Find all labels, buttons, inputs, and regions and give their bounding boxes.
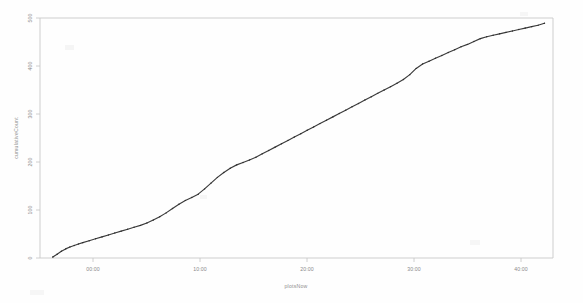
data-point	[108, 234, 109, 235]
data-point	[531, 26, 532, 27]
y-tick-label-200: 200	[27, 158, 33, 167]
data-point	[236, 164, 237, 165]
y-tick-label-500: 500	[27, 14, 33, 23]
data-point	[505, 32, 506, 33]
data-point	[121, 230, 122, 231]
data-point	[52, 256, 53, 257]
x-axis-tick-labels: 00:00 10:00 20:00 30:00 40:00	[86, 266, 527, 272]
data-point	[524, 27, 525, 28]
data-point	[332, 116, 333, 117]
data-point	[512, 30, 513, 31]
data-point	[409, 74, 410, 75]
data-point	[351, 106, 352, 107]
data-point	[383, 89, 384, 90]
data-point	[371, 96, 372, 97]
data-point	[390, 86, 391, 87]
data-point	[133, 227, 134, 228]
data-point	[345, 109, 346, 110]
data-point	[172, 208, 173, 209]
data-point	[422, 63, 423, 64]
data-point	[268, 150, 269, 151]
data-point	[415, 68, 416, 69]
y-tick-label-400: 400	[27, 62, 33, 71]
y-axis-ticks	[36, 18, 40, 258]
series-line-cumulative	[53, 23, 545, 257]
data-point	[358, 103, 359, 104]
data-point	[65, 248, 66, 249]
data-point	[480, 38, 481, 39]
data-point	[281, 143, 282, 144]
data-point	[101, 236, 102, 237]
data-point	[82, 242, 83, 243]
y-tick-label-0: 0	[27, 257, 33, 260]
data-point	[537, 24, 538, 25]
data-point	[326, 120, 327, 121]
data-point	[518, 29, 519, 30]
data-point	[396, 83, 397, 84]
data-point	[255, 156, 256, 157]
data-point	[197, 193, 198, 194]
chart-plot-area: 0 100 200 300 400 500 00:00 10:00 20:00 …	[0, 0, 583, 303]
data-point	[114, 232, 115, 233]
data-point	[428, 60, 429, 61]
x-axis-ticks	[93, 258, 521, 262]
data-point	[460, 46, 461, 47]
data-point	[287, 140, 288, 141]
paper-noise	[30, 12, 528, 295]
y-axis-tick-labels: 0 100 200 300 400 500	[27, 14, 33, 260]
data-point	[204, 188, 205, 189]
axis-frame	[40, 18, 553, 258]
data-point	[473, 41, 474, 42]
data-point	[306, 130, 307, 131]
data-point	[454, 49, 455, 50]
data-point	[364, 99, 365, 100]
data-point	[492, 35, 493, 36]
data-point	[223, 172, 224, 173]
data-point	[178, 204, 179, 205]
data-point	[294, 136, 295, 137]
data-point	[210, 182, 211, 183]
data-point	[242, 162, 243, 163]
y-tick-label-300: 300	[27, 110, 33, 119]
x-tick-label-3000: 30:00	[407, 266, 420, 272]
x-tick-label-2000: 20:00	[300, 266, 313, 272]
x-tick-label-1000: 10:00	[193, 266, 206, 272]
data-series-line	[52, 23, 545, 258]
figure-canvas: 0 100 200 300 400 500 00:00 10:00 20:00 …	[0, 0, 583, 303]
data-point	[217, 177, 218, 178]
data-point	[191, 197, 192, 198]
data-point	[165, 212, 166, 213]
data-point	[377, 93, 378, 94]
data-point	[127, 228, 128, 229]
x-axis-title: plotsNow	[285, 283, 308, 289]
data-point	[153, 219, 154, 220]
data-point	[274, 146, 275, 147]
y-tick-label-100: 100	[27, 206, 33, 215]
x-tick-label-0000: 00:00	[86, 266, 99, 272]
data-point	[313, 126, 314, 127]
data-point	[88, 240, 89, 241]
data-point	[339, 113, 340, 114]
data-point	[140, 225, 141, 226]
data-point	[262, 153, 263, 154]
data-point	[78, 243, 79, 244]
data-point	[486, 36, 487, 37]
data-point	[448, 52, 449, 53]
y-axis-title: cumulativeCount	[13, 117, 19, 159]
data-point	[435, 58, 436, 59]
data-point	[319, 123, 320, 124]
data-point	[467, 44, 468, 45]
data-point	[61, 251, 62, 252]
data-point	[146, 222, 147, 223]
data-point	[159, 216, 160, 217]
data-point	[249, 159, 250, 160]
data-point	[56, 253, 57, 254]
data-point	[69, 246, 70, 247]
data-point	[499, 33, 500, 34]
data-point	[73, 245, 74, 246]
data-point	[403, 79, 404, 80]
data-point	[95, 238, 96, 239]
data-point	[300, 133, 301, 134]
data-point	[544, 23, 545, 24]
x-tick-label-4000: 40:00	[514, 266, 527, 272]
